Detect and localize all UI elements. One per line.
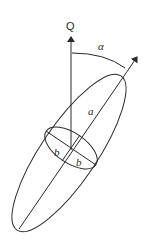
semi-minor-b-left-label: b: [54, 146, 60, 158]
ellipsoid-diagram: Q α a b b: [0, 0, 144, 249]
angle-alpha-label: α: [98, 40, 104, 52]
semi-major-a-label: a: [88, 105, 94, 117]
angle-alpha-arc: [72, 53, 125, 68]
q-axis-label: Q: [66, 20, 75, 32]
major-axis-arrow: [19, 57, 137, 229]
ellipsoid-outline: [0, 60, 144, 246]
semi-minor-b-right-label: b: [76, 156, 82, 168]
